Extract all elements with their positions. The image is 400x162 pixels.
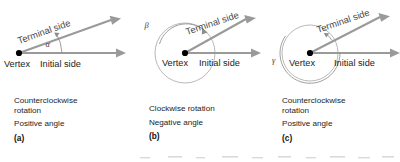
initial-side-ray xyxy=(19,49,126,58)
terminal-side-label: Terminal side xyxy=(184,9,240,37)
panel-b-caption: Clockwise rotation Negative angle (b) xyxy=(149,104,283,142)
panel-b-diagram: β Vertex Initial side Terminal side xyxy=(133,0,267,88)
vertex-dot xyxy=(16,50,22,56)
panel-a: α Vertex Initial side Terminal side Coun… xyxy=(0,0,134,162)
caption-line: Positive angle xyxy=(14,119,148,129)
vertex-label: Vertex xyxy=(162,58,188,68)
panel-c-caption: Counterclockwise rotation Positive angle… xyxy=(282,96,400,144)
initial-side-label: Initial side xyxy=(40,59,81,69)
caption-line: Negative angle xyxy=(149,118,283,128)
initial-side-label: Initial side xyxy=(199,58,240,68)
caption-line: Counterclockwise xyxy=(14,96,148,106)
panel-c-diagram: γ Vertex Initial side Terminal side xyxy=(266,0,400,88)
terminal-side-label: Terminal side xyxy=(16,17,72,46)
vertex-dot xyxy=(182,50,188,56)
caption-line: rotation xyxy=(14,106,148,116)
initial-side-ray xyxy=(310,49,400,58)
terminal-side-label: Terminal side xyxy=(315,7,371,35)
caption-line: Positive angle xyxy=(282,119,400,129)
panel-label: (a) xyxy=(14,133,148,144)
panel-c: γ Vertex Initial side Terminal side Coun… xyxy=(266,0,400,162)
panel-a-caption: Counterclockwise rotation Positive angle… xyxy=(14,96,148,144)
vertex-dot xyxy=(307,50,313,56)
panel-label: (b) xyxy=(149,131,283,142)
angle-symbol-gamma: γ xyxy=(272,56,276,65)
angle-symbol-beta: β xyxy=(144,21,150,30)
caption-line: rotation xyxy=(282,106,400,116)
initial-side-label: Initial side xyxy=(334,58,375,68)
panel-a-diagram: α Vertex Initial side Terminal side xyxy=(0,0,134,88)
vertex-label: Vertex xyxy=(4,59,30,69)
angle-arc-alpha xyxy=(54,33,62,53)
caption-line: Counterclockwise xyxy=(282,96,400,106)
vertex-label: Vertex xyxy=(289,58,315,68)
page-edge-artifact xyxy=(0,155,400,161)
angle-symbol-alpha: α xyxy=(46,40,51,49)
angle-rotation-figure: α Vertex Initial side Terminal side Coun… xyxy=(0,0,400,162)
panel-b: β Vertex Initial side Terminal side Cloc… xyxy=(133,0,267,162)
panel-label: (c) xyxy=(282,133,400,144)
caption-line: Clockwise rotation xyxy=(149,104,283,114)
initial-side-ray xyxy=(185,49,261,58)
